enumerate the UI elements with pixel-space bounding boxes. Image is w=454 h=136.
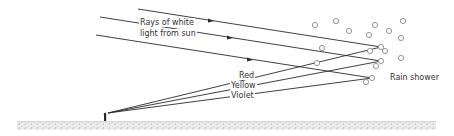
sun-ray-1: [138, 9, 381, 47]
observer-icon: [104, 113, 107, 121]
ray-red: [108, 47, 381, 113]
rays-label-line1: Rays of white: [139, 18, 195, 27]
refracted-rays: [108, 47, 381, 113]
rays-label-line2: light from sun: [139, 29, 197, 38]
red-label: Red: [238, 71, 255, 80]
rain-shower-label: Rain shower: [389, 73, 440, 82]
rainbow-diagram: [0, 0, 454, 136]
ground: [17, 122, 436, 130]
violet-label: Violet: [230, 91, 255, 100]
yellow-label: Yellow: [230, 81, 257, 90]
sun-ray-3: [96, 35, 372, 78]
